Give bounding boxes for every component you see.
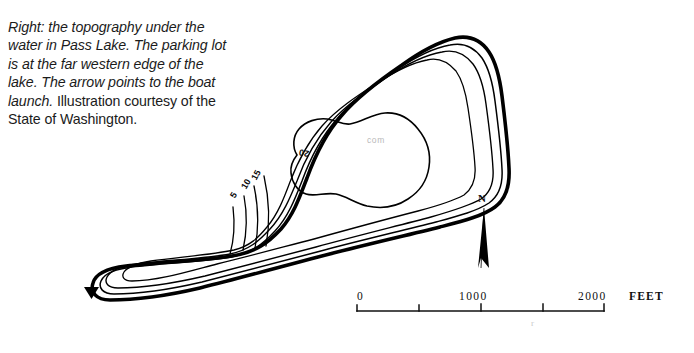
depth-contour-20 xyxy=(291,113,430,207)
scan-watermark-text: com xyxy=(367,135,385,145)
figure-container: Right: the topography under the water in… xyxy=(0,0,694,353)
depth-label-20: 20 xyxy=(298,147,310,159)
compass-north-label: N xyxy=(478,192,486,204)
scale-label-0: 0 xyxy=(357,290,364,302)
scale-bar xyxy=(357,304,604,311)
depth-contour-10 xyxy=(106,51,493,288)
depth-contour-15 xyxy=(123,59,475,281)
scan-artifact-mark: r xyxy=(531,318,534,328)
scale-label-2000: 2000 xyxy=(578,290,607,302)
scale-label-1000: 1000 xyxy=(459,290,488,302)
scale-unit-label: FEET xyxy=(629,290,664,302)
